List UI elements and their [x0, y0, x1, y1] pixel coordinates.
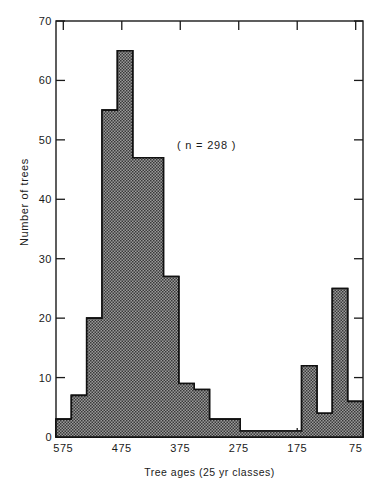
x-tick-label: 475	[97, 442, 147, 454]
x-tick-label: 575	[38, 442, 88, 454]
x-tick-label: 275	[214, 442, 264, 454]
x-tick-label: 75	[331, 442, 379, 454]
histogram-figure: 010203040506070 57547537527517575 Number…	[0, 0, 379, 490]
sample-size-annotation: ( n = 298 )	[177, 139, 236, 151]
x-axis-tick-labels: 57547537527517575	[0, 0, 379, 490]
y-axis-title: Number of trees	[18, 112, 30, 292]
x-axis-title: Tree ages (25 yr classes)	[56, 466, 363, 478]
x-tick-label: 375	[155, 442, 205, 454]
x-tick-label: 175	[272, 442, 322, 454]
